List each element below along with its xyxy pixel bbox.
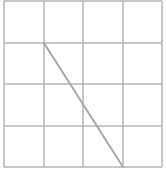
grid-lines <box>4 1 162 167</box>
grid-svg <box>0 0 166 176</box>
grid-diagram <box>0 0 166 176</box>
